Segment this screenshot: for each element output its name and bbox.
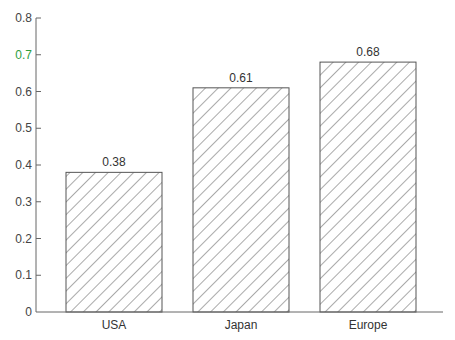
y-tick-label: 0.5 [15, 121, 32, 135]
y-tick-label: 0.6 [15, 85, 32, 99]
bar-europe [320, 62, 416, 312]
y-tick-label: 0.1 [15, 268, 32, 282]
x-category-label: Europe [349, 318, 388, 332]
y-tick-label: 0.2 [15, 232, 32, 246]
x-category-label: Japan [225, 318, 258, 332]
y-tick-label: 0.3 [15, 195, 32, 209]
x-axis: USAJapanEurope [36, 312, 443, 332]
bar-value-label: 0.38 [102, 155, 126, 169]
y-tick-label: 0.4 [15, 158, 32, 172]
y-tick-label: 0.7 [15, 48, 32, 62]
y-tick-label: 0.8 [15, 11, 32, 25]
bars: 0.380.610.68 [66, 45, 416, 312]
bar-chart: 00.10.20.30.40.50.60.70.8 0.380.610.68 U… [0, 0, 455, 340]
bar-usa [66, 172, 162, 312]
bar-value-label: 0.61 [229, 71, 253, 85]
y-axis: 00.10.20.30.40.50.60.70.8 [15, 11, 41, 319]
y-tick-label: 0 [25, 305, 32, 319]
x-category-label: USA [102, 318, 127, 332]
bar-japan [193, 88, 289, 312]
bar-value-label: 0.68 [356, 45, 380, 59]
